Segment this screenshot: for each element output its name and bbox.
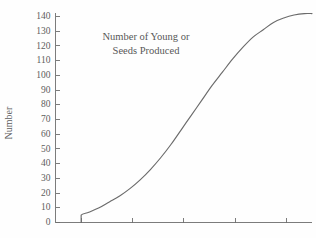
y-tick-label: 80 [41, 99, 51, 109]
y-tick-label: 20 [41, 188, 51, 198]
y-tick-labels: 0102030405060708090100110120130140 [36, 11, 51, 227]
sigmoid-growth-chart: 0102030405060708090100110120130140 Numbe… [0, 0, 316, 238]
y-tick-label: 40 [41, 158, 51, 168]
y-tick-label: 90 [41, 85, 51, 95]
y-tick-label: 100 [36, 70, 51, 80]
y-tick-label: 60 [41, 129, 51, 139]
y-tick-label: 120 [36, 41, 51, 51]
y-tick-label: 0 [46, 217, 51, 227]
y-tick-label: 30 [41, 173, 51, 183]
y-axis-group: 0102030405060708090100110120130140 Numbe… [3, 11, 60, 227]
y-tick-label: 70 [41, 114, 51, 124]
y-tick-label: 10 [41, 202, 51, 212]
chart-container: 0102030405060708090100110120130140 Numbe… [0, 0, 316, 238]
y-tick-label: 110 [37, 55, 51, 65]
x-tick-marks [81, 218, 286, 223]
plot-title-group: Number of Young or Seeds Produced [103, 31, 190, 56]
y-tick-label: 140 [36, 11, 51, 21]
x-axis-group [56, 218, 313, 223]
y-tick-marks [56, 17, 61, 223]
plot-title-line2: Seeds Produced [113, 45, 181, 56]
y-axis-title: Number [3, 106, 14, 139]
y-tick-label: 50 [41, 144, 51, 154]
plot-title-line1: Number of Young or [103, 31, 190, 42]
y-tick-label: 130 [36, 26, 51, 36]
